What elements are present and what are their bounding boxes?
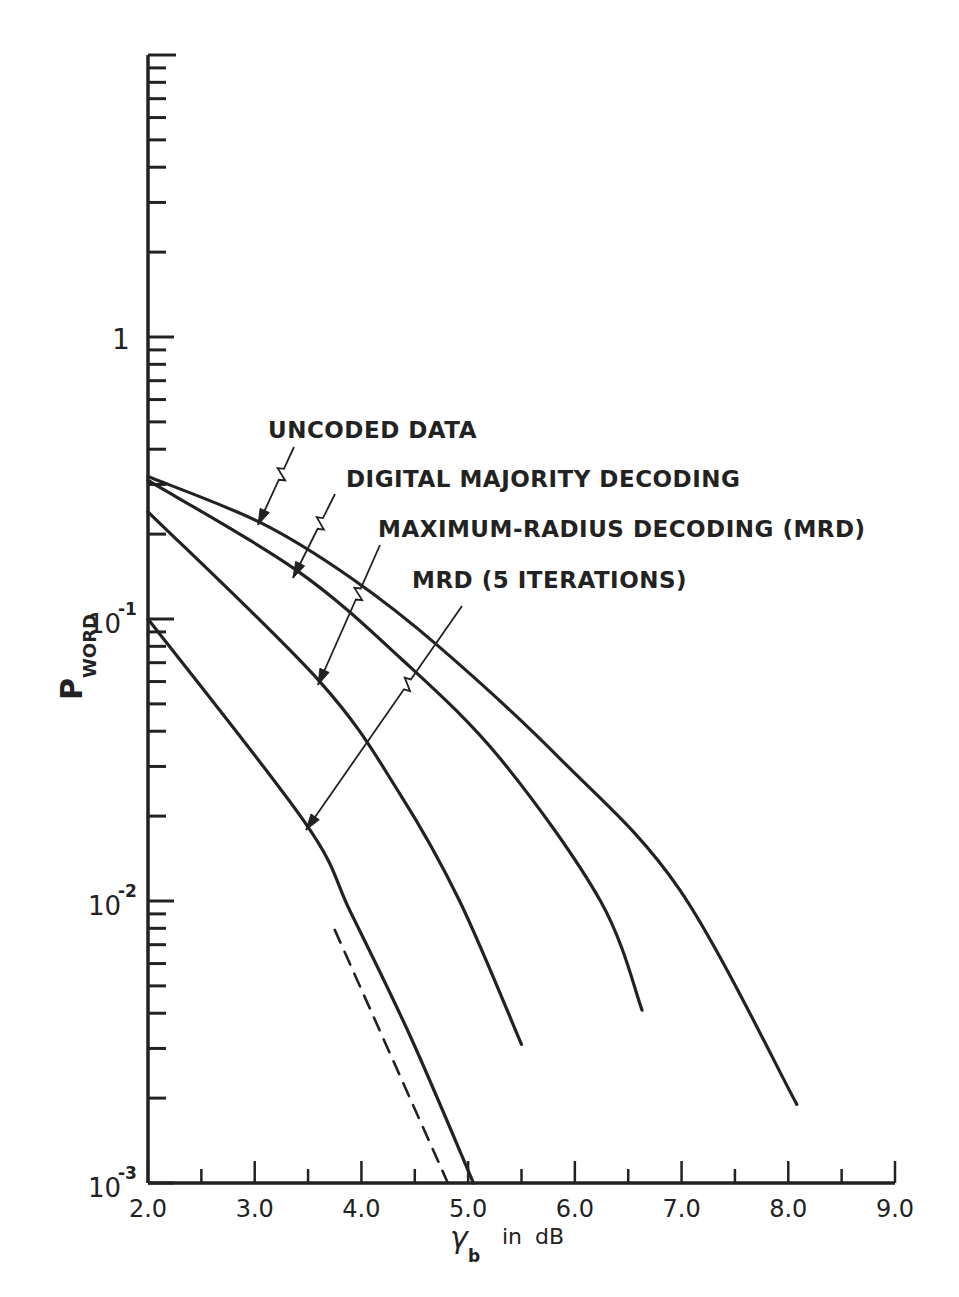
annotation-label: DIGITAL MAJORITY DECODING xyxy=(346,466,740,492)
x-tick-label: 2.0 xyxy=(129,1195,167,1223)
svg-text:-1: -1 xyxy=(118,599,137,619)
arrowhead-icon xyxy=(306,814,319,830)
x-tick-label: 7.0 xyxy=(662,1195,700,1223)
annotation-label: MRD (5 ITERATIONS) xyxy=(412,567,687,593)
x-axis-label-main: γ xyxy=(450,1220,470,1255)
annotation-label: MAXIMUM-RADIUS DECODING (MRD) xyxy=(378,516,866,542)
annotation-label: UNCODED DATA xyxy=(268,417,477,443)
x-tick-label: 9.0 xyxy=(876,1195,914,1223)
x-tick-label: 4.0 xyxy=(342,1195,380,1223)
curve-asymptote-unlabeled xyxy=(335,930,448,1183)
x-axis-label-suffix: in dB xyxy=(502,1224,564,1249)
svg-text:1: 1 xyxy=(112,323,130,356)
svg-text:-3: -3 xyxy=(118,1163,137,1183)
curve-mrd-5-iterations xyxy=(148,619,473,1183)
x-tick-labels: 2.03.04.05.06.07.08.09.0 xyxy=(129,1195,914,1223)
curve-digital-majority-decoding xyxy=(148,480,642,1010)
x-axis-label: γ b in dB xyxy=(450,1220,564,1266)
x-axis-label-sub: b xyxy=(468,1246,480,1266)
chart: 110-110-210-3 2.03.04.05.06.07.08.09.0 U… xyxy=(0,0,959,1297)
annotation-arrow xyxy=(306,606,462,830)
x-tick-label: 8.0 xyxy=(769,1195,807,1223)
x-tick-label: 5.0 xyxy=(449,1195,487,1223)
y-tick-labels: 110-110-210-3 xyxy=(88,323,137,1203)
y-axis-label-sub: WORD xyxy=(79,614,100,678)
x-tick-label: 3.0 xyxy=(236,1195,274,1223)
x-tick-label: 6.0 xyxy=(556,1195,594,1223)
y-axis-label: P WORD xyxy=(54,614,100,700)
annotation-arrow xyxy=(318,545,380,685)
svg-text:10: 10 xyxy=(88,1173,121,1203)
svg-text:-2: -2 xyxy=(118,881,137,901)
annotations: UNCODED DATADIGITAL MAJORITY DECODINGMAX… xyxy=(268,417,866,593)
y-tick-label: 10-2 xyxy=(88,881,137,921)
svg-text:10: 10 xyxy=(88,891,121,921)
y-tick-label: 1 xyxy=(112,323,130,356)
y-axis-label-main: P xyxy=(54,678,89,700)
arrowhead-icon xyxy=(318,668,329,685)
